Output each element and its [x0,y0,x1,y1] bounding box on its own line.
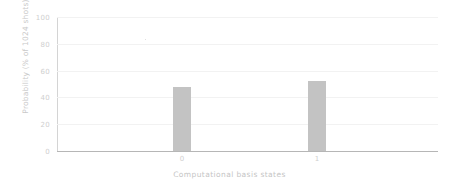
stray-speck [145,39,146,40]
bar-state-1 [308,81,326,151]
bar-state-0 [173,87,191,151]
y-tick-label-20: 20 [10,121,50,129]
gridline-40 [57,97,438,98]
gridline-80 [57,44,438,45]
plot-area [57,17,438,151]
gridline-60 [57,71,438,72]
gridline-100 [57,17,438,18]
bar-chart-figure: Probability (% of 1024 shots) 100 80 60 … [0,0,459,189]
y-tick-label-0: 0 [10,148,50,156]
y-tick-label-80: 80 [10,41,50,49]
gridline-20 [57,124,438,125]
x-axis-spine [57,151,438,152]
y-tick-label-60: 60 [10,68,50,76]
x-tick-label-1: 1 [297,155,337,163]
y-tick-label-40: 40 [10,94,50,102]
y-tick-label-100: 100 [10,14,50,22]
x-tick-label-0: 0 [162,155,202,163]
x-axis-title: Computational basis states [0,170,459,179]
